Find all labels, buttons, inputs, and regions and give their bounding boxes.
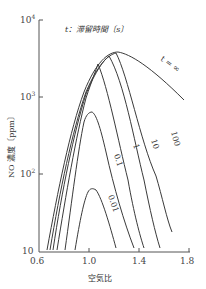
label-t-100: 100 xyxy=(169,130,182,147)
y-tick-10e3: 103 xyxy=(20,90,35,102)
curve-t-100 xyxy=(50,53,172,250)
y-tick-10: 10 xyxy=(22,246,34,256)
x-tick-1.4: 1.4 xyxy=(132,256,147,266)
chart-title: t：滞留時間〔s〕 xyxy=(65,25,128,34)
curve-t-infinity xyxy=(47,52,184,250)
x-tick-0.6: 0.6 xyxy=(30,256,45,266)
label-t-0.01: 0.01 xyxy=(106,194,121,214)
label-t-infinity: t = ∞ xyxy=(159,54,182,74)
x-axis-title: 空気比 xyxy=(88,273,112,283)
y-tick-10e4: 104 xyxy=(20,13,35,25)
label-t-1: 1 xyxy=(131,143,141,151)
label-t-0.1: 0.1 xyxy=(112,153,124,168)
x-tick-1.0: 1.0 xyxy=(82,256,97,266)
label-t-10: 10 xyxy=(149,138,161,150)
y-axis-title: NO 濃度〔ppm〕 xyxy=(6,112,16,178)
y-tick-10e2: 102 xyxy=(20,167,35,179)
no-concentration-chart: 104 103 102 10 0.6 1.0 1.4 1.8 空気比 NO 濃度… xyxy=(0,0,206,289)
x-tick-1.8: 1.8 xyxy=(180,256,195,266)
